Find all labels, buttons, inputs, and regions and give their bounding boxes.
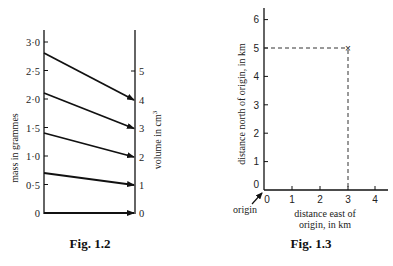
north-ticks: 0 1 2 3 4 5 6 <box>253 14 268 190</box>
east-tick-0: 0 <box>264 194 270 205</box>
mass-tick-0-5: 0·5 <box>26 180 40 191</box>
figure-1-3: 0 1 2 3 4 5 6 0 1 2 3 4 × origin distanc <box>233 8 388 251</box>
mapping-arrows <box>44 53 134 213</box>
east-tick-1: 1 <box>289 194 295 205</box>
mass-tick-3-0: 3·0 <box>26 37 40 48</box>
origin-label: origin <box>233 204 257 215</box>
north-tick-6: 6 <box>253 14 259 25</box>
north-axis-label: distance north of origin, in km <box>236 43 247 165</box>
north-tick-0: 0 <box>253 179 259 190</box>
east-tick-2: 2 <box>317 194 323 205</box>
volume-ticks: 0 1 2 3 4 5 <box>131 66 145 219</box>
east-tick-4: 4 <box>372 194 378 205</box>
volume-tick-0: 0 <box>139 208 144 219</box>
volume-tick-3: 3 <box>139 123 144 134</box>
east-ticks: 0 1 2 3 4 <box>264 186 378 205</box>
north-tick-2: 2 <box>253 128 259 139</box>
volume-tick-2: 2 <box>139 152 144 163</box>
volume-tick-1: 1 <box>139 180 144 191</box>
arrow-1-4-to-2 <box>44 133 134 157</box>
mass-tick-1-0: 1·0 <box>26 151 40 162</box>
mass-tick-1-5: 1·5 <box>26 123 40 134</box>
north-tick-3: 3 <box>253 100 259 111</box>
north-tick-5: 5 <box>253 43 259 54</box>
figure-1-2: 0 0·5 1·0 1·5 2·0 2·5 3·0 0 1 2 3 4 5 m <box>9 30 163 251</box>
figure-caption: Fig. 1.2 <box>70 236 111 251</box>
mass-axis-label: mass in grammes <box>9 113 20 183</box>
point-marker: × <box>345 43 351 54</box>
arrow-2-8-to-4 <box>44 53 134 100</box>
volume-tick-4: 4 <box>139 95 145 106</box>
mass-ticks: 0 0·5 1·0 1·5 2·0 2·5 3·0 <box>26 37 48 219</box>
mass-tick-2-5: 2·5 <box>26 66 40 77</box>
mass-tick-2-0: 2·0 <box>26 94 40 105</box>
arrow-2-1-to-3 <box>44 93 134 129</box>
east-axis-label-line1: distance east of <box>294 208 356 219</box>
volume-axis-label: volume in cm3 <box>151 110 163 169</box>
north-tick-4: 4 <box>253 71 259 82</box>
mass-tick-0: 0 <box>35 208 40 219</box>
figure-canvas: 0 0·5 1·0 1·5 2·0 2·5 3·0 0 1 2 3 4 5 m <box>0 0 393 266</box>
arrow-0-7-to-1 <box>44 173 134 185</box>
north-tick-1: 1 <box>253 156 259 167</box>
figure-caption: Fig. 1.3 <box>291 236 332 251</box>
east-tick-3: 3 <box>345 194 351 205</box>
east-axis-label-line2: origin, in km <box>299 219 351 230</box>
volume-tick-5: 5 <box>139 66 144 77</box>
origin-pointer-arrow <box>252 193 262 204</box>
